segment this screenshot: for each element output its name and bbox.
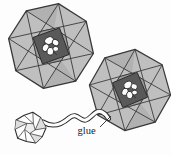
crumpled-paper-ball xyxy=(15,112,46,143)
origami-twist-module-upper-left xyxy=(9,4,94,89)
glue-label: glue xyxy=(78,125,96,136)
diagram-drawing: glue xyxy=(0,0,171,155)
origami-diagram: glue xyxy=(0,0,171,155)
origami-twist-module-lower-right xyxy=(88,48,171,133)
glue-tube-outline xyxy=(43,111,109,125)
glue-tube xyxy=(43,111,109,125)
